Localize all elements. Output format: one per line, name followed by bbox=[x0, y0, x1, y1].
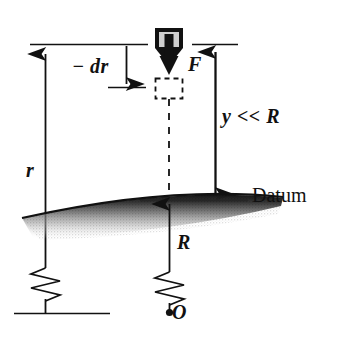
label-radius-r: r bbox=[26, 160, 34, 180]
diagram-canvas bbox=[0, 0, 339, 341]
label-y-much-less-than-R: y << R bbox=[222, 106, 280, 126]
label-force-F: F bbox=[188, 54, 201, 74]
break-symbol-left bbox=[31, 268, 60, 301]
earth-surface bbox=[20, 186, 290, 246]
label-origin-O: O bbox=[172, 302, 186, 322]
displaced-position-box bbox=[156, 79, 183, 99]
label-minus-dr: − dr bbox=[72, 56, 109, 76]
label-datum: Datum bbox=[252, 185, 306, 205]
dimension-r bbox=[31, 54, 60, 313]
label-earth-radius-R: R bbox=[177, 232, 190, 252]
physics-diagram-figure: − dr F y << R r Datum R O bbox=[0, 0, 339, 341]
